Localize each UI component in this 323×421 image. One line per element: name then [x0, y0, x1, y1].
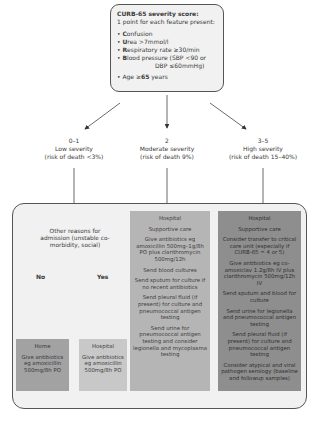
severity-moderate: 2 Moderate severity (risk of death 9%) [117, 137, 217, 161]
moderate-item: Send urine for pneumococcal antigen test… [133, 325, 207, 358]
criterion-respiratory: • Respiratory rate ≥30/min [117, 46, 217, 54]
severity-label: Moderate severity [117, 145, 217, 153]
home-title: Home [19, 343, 66, 350]
severity-high: 3–5 High severity (risk of death 15–40%) [213, 137, 313, 161]
score-subtitle: 1 point for each feature present: [117, 18, 217, 26]
criteria-list: • Confusion • Urea >7mmol/l • Respirator… [117, 30, 217, 81]
severity-risk: (risk of death 15–40%) [213, 153, 313, 161]
branch-yes: Yes [97, 273, 108, 280]
moderate-item: Send blood cultures [133, 267, 207, 274]
criterion-urea: • Urea >7mmol/l [117, 38, 217, 46]
hospital-text: Give antibiotics eg amoxicillin 500mg/8h… [82, 354, 124, 374]
severity-label: Low severity [24, 145, 124, 153]
other-reasons-question: Other reasons for admission (unstable co… [35, 228, 115, 249]
high-item: Send sputum and blood for culture [221, 290, 298, 303]
moderate-item: Supportive care [133, 226, 207, 233]
high-item: Supportive care [221, 226, 298, 233]
high-item: Give antibiotics eg co-amoxiclav 1.2g/8h… [221, 260, 298, 286]
severity-score: 3–5 [213, 137, 313, 145]
home-text: Give antibiotics eg amoxicillin 500mg/8h… [19, 354, 66, 374]
moderate-item: Send sputum for culture if no recent ant… [133, 277, 207, 290]
high-item: Consider transfer to critical care unit … [221, 236, 298, 256]
severity-label: High severity [213, 145, 313, 153]
high-item: Send urine for legionella and pneumococc… [221, 308, 298, 328]
moderate-item: Hospital [133, 215, 207, 222]
score-title: CURB-65 severity score: [117, 10, 217, 18]
moderate-item: Send pleural fluid (if present) for cult… [133, 294, 207, 320]
high-item: Send pleural fluid (if present) for cult… [221, 331, 298, 357]
severity-risk: (risk of death 9%) [117, 153, 217, 161]
moderate-item: Give antibiotics eg amoxicillin 500mg–1g… [133, 236, 207, 262]
branch-no: No [36, 273, 45, 280]
high-management-box: Hospital Supportive care Consider transf… [218, 211, 301, 391]
severity-risk: (risk of death <3%) [24, 153, 124, 161]
high-item: Consider atypical and viral pathogen ser… [221, 362, 298, 382]
curb65-score-box: CURB-65 severity score: 1 point for each… [110, 4, 224, 92]
severity-score: 2 [117, 137, 217, 145]
severity-score: 0–1 [24, 137, 124, 145]
high-item: Hospital [221, 215, 298, 222]
low-hospital-box: Hospital Give antibiotics eg amoxicillin… [79, 339, 127, 391]
home-box: Home Give antibiotics eg amoxicillin 500… [16, 339, 69, 391]
hospital-title: Hospital [82, 343, 124, 350]
severity-low: 0–1 Low severity (risk of death <3%) [24, 137, 124, 161]
criterion-confusion: • Confusion [117, 30, 217, 38]
criterion-blood-pressure: • Blood pressure (SBP <90 or [117, 54, 217, 62]
moderate-management-box: Hospital Supportive care Give antibiotic… [130, 211, 210, 391]
criterion-age: • Age ≥65 years [117, 73, 217, 81]
criterion-dbp: DBP ≤60mmHg) [117, 62, 217, 70]
